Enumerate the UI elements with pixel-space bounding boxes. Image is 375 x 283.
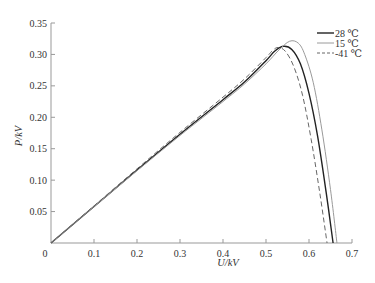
- x-tick-label: 0.5: [260, 248, 273, 259]
- chart-canvas: 00.10.20.30.40.50.60.7 0.050.100.150.200…: [0, 0, 375, 283]
- x-tick-label: 0.3: [174, 248, 187, 259]
- axes: 00.10.20.30.40.50.60.7 0.050.100.150.200…: [30, 18, 359, 260]
- x-tick-label: 0.1: [88, 248, 101, 259]
- pv-power-voltage-chart: 00.10.20.30.40.50.60.7 0.050.100.150.200…: [0, 0, 375, 283]
- x-ticks: 00.10.20.30.40.50.60.7: [43, 239, 359, 259]
- y-tick-label: 0.15: [30, 143, 48, 154]
- y-tick-label: 0.05: [30, 206, 48, 217]
- y-axis-label: P/kV: [13, 124, 24, 147]
- x-tick-label: 0.7: [346, 248, 359, 259]
- x-axis-label: U/kV: [217, 257, 240, 268]
- x-tick-label: 0.2: [131, 248, 144, 259]
- series-line: [51, 46, 333, 243]
- legend-label: -41 ℃: [335, 48, 362, 59]
- y-tick-label: 0.20: [30, 112, 48, 123]
- x-tick-label: 0.6: [303, 248, 316, 259]
- series-layer: [51, 41, 337, 243]
- series-line: [51, 41, 337, 243]
- y-tick-label: 0.35: [30, 18, 48, 29]
- series-line: [51, 48, 327, 243]
- y-tick-label: 0.25: [30, 80, 48, 91]
- legend: 28 ℃15 ℃-41 ℃: [317, 28, 362, 59]
- y-tick-label: 0.30: [30, 49, 48, 60]
- x-tick-label: 0: [43, 248, 48, 259]
- y-tick-label: 0.10: [30, 175, 48, 186]
